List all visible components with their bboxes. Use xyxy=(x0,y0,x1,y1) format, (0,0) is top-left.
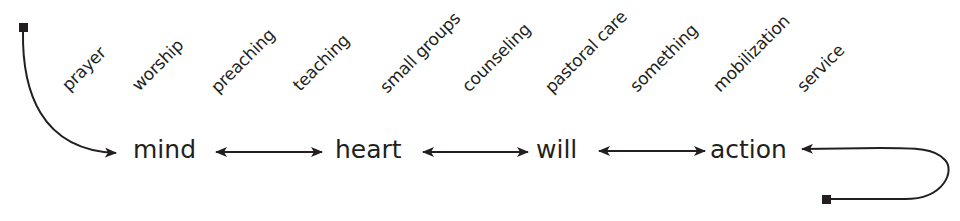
connector-arrows xyxy=(0,0,960,221)
diagram-canvas: prayerworshippreachingteachingsmall grou… xyxy=(0,0,960,221)
return-loop-arrow xyxy=(802,148,949,199)
start-square-icon xyxy=(19,23,28,32)
stage-node-mind: mind xyxy=(133,137,196,162)
end-square-icon xyxy=(822,195,831,204)
stage-node-action: action xyxy=(710,137,787,162)
stage-node-heart: heart xyxy=(335,137,402,162)
stage-node-will: will xyxy=(536,137,577,162)
